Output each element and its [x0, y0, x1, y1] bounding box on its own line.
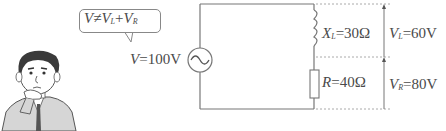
circuit-diagram — [0, 0, 446, 131]
arrow-up-icon — [382, 57, 386, 62]
callout-term1: V — [101, 10, 110, 26]
source-voltage-label: V=100V — [130, 51, 181, 68]
inductor-label: XL=30Ω — [322, 25, 370, 42]
voltage-r-label: VR=80V — [389, 76, 437, 93]
resistor-icon — [310, 70, 319, 98]
voltage-l-label: VL=60V — [389, 25, 437, 42]
ac-source-icon — [188, 48, 212, 72]
voltage-l-value: =60V — [403, 25, 437, 41]
voltage-r-value: =80V — [403, 76, 437, 92]
inductor-icon — [314, 10, 317, 46]
thinking-person-illustration — [2, 51, 76, 131]
callout-term2-sub: R — [133, 17, 138, 26]
inductor-value: =30Ω — [336, 25, 371, 41]
circuit-wires — [200, 4, 314, 109]
resistor-symbol: R — [322, 74, 331, 90]
arrow-up-icon — [382, 4, 386, 9]
source-value: =100V — [139, 51, 181, 67]
callout-equation: V≠VL+VR — [84, 10, 138, 27]
plus-sign: + — [115, 10, 123, 26]
resistor-label: R=40Ω — [322, 74, 366, 91]
callout-term2: V — [124, 10, 133, 26]
voltage-l-symbol: V — [389, 25, 398, 41]
dotted-guides — [316, 4, 392, 109]
callout-lhs: V — [84, 10, 93, 26]
source-symbol: V — [130, 51, 139, 67]
resistor-value: =40Ω — [331, 74, 366, 90]
voltage-r-symbol: V — [389, 76, 398, 92]
inductor-symbol: X — [322, 25, 331, 41]
